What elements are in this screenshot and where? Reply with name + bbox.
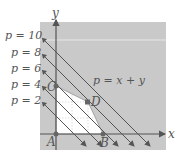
label-p10: p = 10 bbox=[5, 29, 42, 42]
label-p2: p = 2 bbox=[11, 94, 41, 107]
vertex-c-label: C bbox=[47, 80, 56, 94]
vertex-b-label: B bbox=[99, 136, 109, 150]
vertex-d-label: D bbox=[90, 95, 101, 109]
y-axis-label: y bbox=[51, 6, 59, 20]
lp-diagram: x y A B C D p = 10 p = 8 p = 6 p = 4 p =… bbox=[0, 0, 178, 161]
label-p8: p = 8 bbox=[11, 46, 41, 59]
vertex-d bbox=[85, 100, 90, 105]
objective-label: p = x + y bbox=[93, 74, 146, 87]
vertex-a-label: A bbox=[46, 135, 56, 149]
x-axis-label: x bbox=[168, 127, 175, 141]
label-p6: p = 6 bbox=[11, 62, 41, 75]
label-p4: p = 4 bbox=[11, 78, 41, 91]
